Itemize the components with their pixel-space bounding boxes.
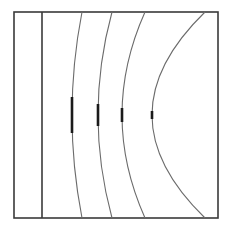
wavefront-diagram <box>0 0 234 231</box>
figure-background <box>0 0 234 231</box>
figure-container <box>0 0 234 231</box>
